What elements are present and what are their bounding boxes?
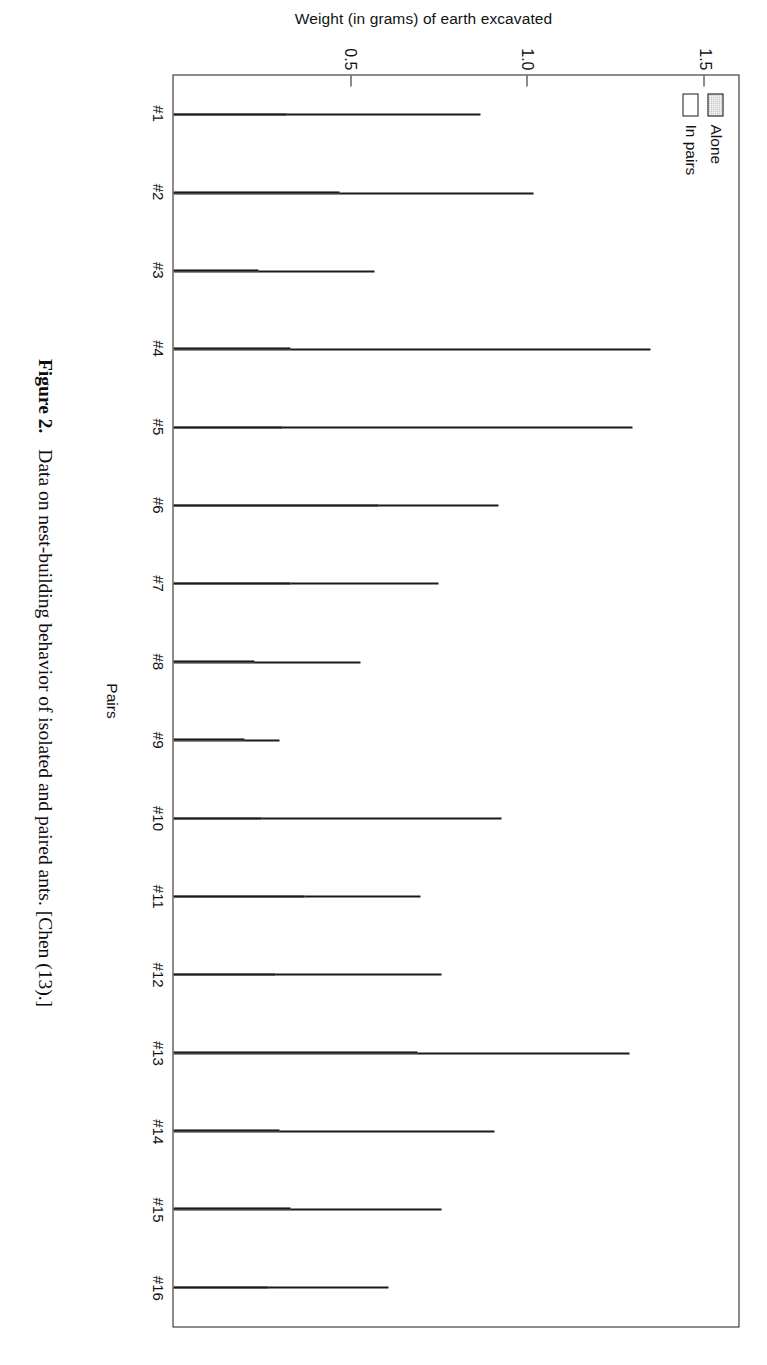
figure-caption-label: Figure 2. bbox=[33, 358, 55, 432]
bar-group bbox=[173, 153, 738, 231]
bar-group bbox=[173, 1248, 738, 1326]
bar-group bbox=[173, 388, 738, 466]
value-axis-title-text: Weight (in grams) of earth excavated bbox=[295, 10, 552, 28]
legend-swatch-in-pairs-icon bbox=[682, 93, 698, 116]
category-tick-label: #3 bbox=[149, 261, 166, 278]
bar-group bbox=[173, 935, 738, 1013]
value-axis-tick-label: 1.0 bbox=[517, 48, 535, 70]
category-tick-label: #10 bbox=[149, 805, 166, 830]
bar-alone[interactable] bbox=[173, 347, 290, 349]
bar-group bbox=[173, 1091, 738, 1169]
bar-alone[interactable] bbox=[173, 895, 304, 897]
category-tick-label: #11 bbox=[149, 884, 166, 908]
plot-area: Weight (in grams) of earth excavated 0.5… bbox=[80, 0, 767, 1365]
category-tick-label: #5 bbox=[149, 418, 166, 435]
legend: Alone In pairs bbox=[681, 93, 724, 175]
category-tick-label: #16 bbox=[149, 1275, 166, 1300]
value-axis-title: Weight (in grams) of earth excavated bbox=[80, 6, 767, 32]
category-tick-label: #9 bbox=[149, 731, 166, 748]
category-tick-label: #1 bbox=[149, 105, 166, 122]
legend-item-in-pairs[interactable]: In pairs bbox=[681, 93, 699, 175]
rotated-figure-stage: Weight (in grams) of earth excavated 0.5… bbox=[0, 0, 767, 1365]
bar-alone[interactable] bbox=[173, 1129, 279, 1131]
bar-group bbox=[173, 231, 738, 309]
category-tick-label: #2 bbox=[149, 183, 166, 200]
bar-alone[interactable] bbox=[173, 660, 254, 662]
bar-alone[interactable] bbox=[173, 426, 282, 428]
value-axis-tick-label: 0.5 bbox=[340, 48, 358, 70]
category-axis-title: Pairs bbox=[102, 74, 120, 1327]
bar-group bbox=[173, 622, 738, 700]
legend-swatch-alone-icon bbox=[707, 93, 723, 116]
bar-group bbox=[173, 857, 738, 935]
bar-group bbox=[173, 1170, 738, 1248]
bar-alone[interactable] bbox=[173, 191, 339, 193]
category-tick-label: #14 bbox=[149, 1119, 166, 1144]
bar-group bbox=[173, 75, 738, 153]
bar-alone[interactable] bbox=[173, 1207, 290, 1209]
category-tick-label: #15 bbox=[149, 1197, 166, 1222]
value-axis-tick-label: 1.5 bbox=[695, 48, 713, 70]
bar-alone[interactable] bbox=[173, 1286, 268, 1288]
bar-group bbox=[173, 701, 738, 779]
bars-layer bbox=[173, 75, 738, 1326]
figure-caption-text: Data on nest-building behavior of isolat… bbox=[33, 449, 55, 1007]
category-tick-label: #4 bbox=[149, 340, 166, 357]
category-axis-tick-labels: #1#2#3#4#5#6#7#8#9#10#11#12#13#14#15#16 bbox=[128, 74, 172, 1327]
legend-item-alone[interactable]: Alone bbox=[706, 93, 724, 175]
bar-alone[interactable] bbox=[173, 1051, 417, 1053]
category-tick-label: #12 bbox=[149, 962, 166, 987]
category-tick-label: #6 bbox=[149, 496, 166, 513]
bar-alone[interactable] bbox=[173, 269, 258, 271]
category-tick-label: #13 bbox=[149, 1040, 166, 1065]
bar-alone[interactable] bbox=[173, 973, 275, 975]
bar-alone[interactable] bbox=[173, 504, 378, 506]
bar-group bbox=[173, 466, 738, 544]
bar-group bbox=[173, 779, 738, 857]
bar-group bbox=[173, 1013, 738, 1091]
bar-alone[interactable] bbox=[173, 582, 290, 584]
category-tick-label: #7 bbox=[149, 575, 166, 592]
bar-alone[interactable] bbox=[173, 738, 244, 740]
bar-alone[interactable] bbox=[173, 113, 286, 115]
category-tick-label: #8 bbox=[149, 653, 166, 670]
figure-block: Weight (in grams) of earth excavated 0.5… bbox=[0, 0, 767, 1365]
legend-label-in-pairs: In pairs bbox=[681, 124, 699, 175]
bar-group bbox=[173, 544, 738, 622]
plot-frame: Alone In pairs bbox=[172, 74, 739, 1327]
bar-alone[interactable] bbox=[173, 817, 261, 819]
figure-caption: Figure 2. Data on nest-building behavior… bbox=[0, 0, 80, 1365]
value-axis-tick-labels: 0.51.01.5 bbox=[172, 30, 739, 72]
bar-group bbox=[173, 310, 738, 388]
legend-label-alone: Alone bbox=[706, 124, 724, 164]
